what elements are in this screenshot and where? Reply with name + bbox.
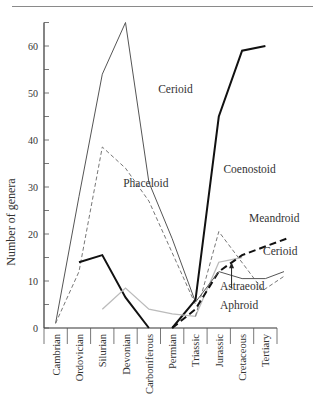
series-annotation: Meandroid	[249, 212, 300, 224]
series-annotation: Coenostoid	[223, 163, 276, 175]
x-tick-label: Permian	[167, 333, 178, 369]
x-tick-label: Devonian	[121, 333, 132, 375]
x-tick-label: Ordovician	[74, 333, 85, 381]
y-tick-label: 0	[33, 323, 38, 334]
series-line	[56, 23, 196, 324]
series-annotation: Aphroid	[220, 299, 259, 312]
y-tick-label: 20	[28, 229, 38, 240]
y-tick-label: 30	[28, 182, 38, 193]
series-annotation: Phaceloid	[123, 177, 169, 189]
x-tick-label: Tertiary	[260, 333, 271, 367]
y-tick-label: 10	[28, 276, 38, 287]
x-tick-label: Triassic	[190, 334, 201, 367]
series-annotation: Cerioid	[158, 83, 193, 95]
x-tick-label: Cretaceous	[237, 334, 248, 381]
y-tick-label: 50	[28, 88, 38, 99]
series-line	[79, 255, 149, 328]
x-tick-label: Silurian	[97, 333, 108, 367]
y-axis-label: Number of genera	[4, 178, 18, 266]
x-tick-label: Jurassic	[214, 334, 225, 368]
genera-line-chart: 0102030405060CambrianOrdovicianSilurianD…	[0, 0, 313, 410]
x-tick-label: Cambrian	[51, 333, 62, 375]
y-tick-label: 40	[28, 135, 38, 146]
x-tick-label: Carboniferous	[144, 334, 155, 394]
y-tick-label: 60	[28, 41, 38, 52]
series-annotation: Astraeoid	[220, 280, 265, 292]
series-annotation: Cerioid	[263, 245, 298, 257]
